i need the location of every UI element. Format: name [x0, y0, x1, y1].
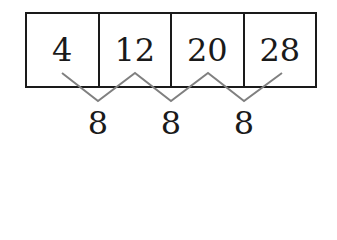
difference-label-3: 8: [229, 104, 259, 142]
difference-label-2: 8: [156, 104, 186, 142]
difference-label-1: 8: [83, 104, 113, 142]
